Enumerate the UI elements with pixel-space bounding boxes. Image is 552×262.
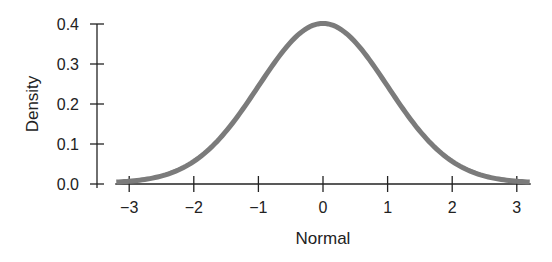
chart-svg: 0.00.10.20.30.4 −3−2−10123 Density Norma… <box>0 0 552 262</box>
y-axis: 0.00.10.20.30.4 <box>57 16 104 193</box>
y-tick-label: 0.0 <box>57 176 79 193</box>
x-tick-label: −1 <box>249 199 267 216</box>
x-tick-label: 3 <box>512 199 521 216</box>
x-tick-label: 1 <box>383 199 392 216</box>
x-axis: −3−2−10123 <box>115 176 530 216</box>
y-axis-label: Density <box>23 75 42 132</box>
y-tick-label: 0.2 <box>57 96 79 113</box>
y-tick-label: 0.4 <box>57 16 79 33</box>
density-curve <box>116 23 529 182</box>
x-tick-label: −2 <box>185 199 203 216</box>
normal-density-chart: 0.00.10.20.30.4 −3−2−10123 Density Norma… <box>0 0 552 262</box>
y-tick-label: 0.3 <box>57 56 79 73</box>
x-tick-label: 2 <box>448 199 457 216</box>
y-tick-label: 0.1 <box>57 136 79 153</box>
x-axis-label: Normal <box>296 229 351 248</box>
x-tick-label: 0 <box>319 199 328 216</box>
x-tick-label: −3 <box>120 199 138 216</box>
